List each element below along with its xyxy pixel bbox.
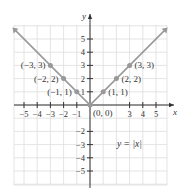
y-axis-arrow-icon <box>88 14 92 19</box>
data-point <box>101 89 106 94</box>
x-tick-label: 3 <box>127 109 131 119</box>
y-axis-label: y <box>81 11 86 21</box>
point-label: (−2, 2) <box>34 74 59 84</box>
y-tick-label: 5 <box>81 34 85 44</box>
x-tick-label: 4 <box>141 109 146 119</box>
y-tick-label: −3 <box>76 140 85 150</box>
data-point <box>114 76 119 81</box>
x-axis-label: x <box>172 107 177 117</box>
absolute-value-graph: xy−5−4−3−2−134554321−2−3−4−5(−3, 3)(−2, … <box>0 0 185 195</box>
x-tick-label: −3 <box>46 109 55 119</box>
point-label: (−3, 3) <box>21 60 46 70</box>
data-point <box>127 63 132 68</box>
data-point <box>88 103 93 108</box>
y-tick-label: −5 <box>76 166 85 176</box>
point-label: (0, 0) <box>93 108 113 118</box>
point-label: (−1, 1) <box>47 87 72 97</box>
x-tick-label: −1 <box>72 109 81 119</box>
y-tick-label: 2 <box>81 74 85 84</box>
data-point <box>74 89 79 94</box>
point-label: (2, 2) <box>121 74 140 84</box>
y-tick-label: −2 <box>76 126 85 136</box>
function-label: y = |x| <box>116 139 142 149</box>
y-tick-label: −4 <box>76 153 86 163</box>
x-tick-label: −2 <box>59 109 68 119</box>
point-label: (1, 1) <box>108 87 128 97</box>
x-tick-label: −4 <box>33 109 43 119</box>
y-tick-label: 3 <box>81 60 85 70</box>
data-point <box>48 63 53 68</box>
data-point <box>61 76 66 81</box>
point-label: (3, 3) <box>135 60 155 70</box>
x-tick-label: −5 <box>19 109 28 119</box>
x-tick-label: 5 <box>154 109 158 119</box>
